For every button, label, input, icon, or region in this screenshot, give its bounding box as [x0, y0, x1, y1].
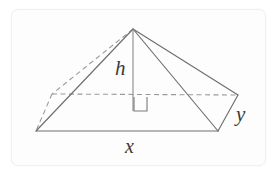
apex-to-front-left-edge: [36, 29, 133, 131]
apex-to-back-right-edge: [133, 29, 238, 95]
base-back-edge: [52, 94, 238, 95]
right-angle-icon: [134, 97, 147, 111]
height-label: h: [115, 58, 126, 79]
screenshot-root: h x y: [0, 0, 276, 174]
pyramid-figure: [0, 0, 276, 174]
apex-to-front-right-edge: [133, 29, 218, 131]
solid-edges: [36, 29, 238, 131]
base-left-edge: [36, 94, 52, 131]
base-right-edge: [218, 95, 238, 131]
hidden-edges: [36, 29, 238, 131]
base-length-label: x: [125, 136, 134, 156]
base-width-label: y: [236, 104, 245, 125]
